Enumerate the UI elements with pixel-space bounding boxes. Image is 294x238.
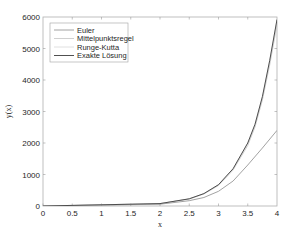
x-tick-label: 4: [275, 209, 280, 218]
y-tick-label: 3000: [22, 108, 40, 117]
x-tick-label: 1.5: [125, 209, 137, 218]
x-tick-label: 3: [216, 209, 221, 218]
x-tick-label: 0.5: [67, 209, 79, 218]
x-tick-label: 2: [158, 209, 163, 218]
y-tick-label: 5000: [22, 45, 40, 54]
x-tick-label: 1: [99, 209, 104, 218]
x-axis-label: x: [158, 220, 162, 229]
y-tick-label: 4000: [22, 76, 40, 85]
y-tick-label: 0: [36, 202, 41, 211]
y-tick-label: 6000: [22, 13, 40, 22]
y-axis-label: y(x): [4, 105, 13, 119]
x-tick-label: 2.5: [184, 209, 196, 218]
legend: Euler Mittelpunktsregel Runge-Kutta Exak…: [50, 23, 134, 62]
y-tick-label: 1000: [22, 171, 40, 180]
x-tick-label: 0: [41, 209, 46, 218]
x-tick-label: 3.5: [242, 209, 254, 218]
y-tick-label: 2000: [22, 139, 40, 148]
chart: 0 0.5 1 1.5 2 2.5 3 3.5 4 0 1000 2000 30…: [0, 0, 294, 238]
legend-label-exakte-loesung: Exakte Lösung: [77, 51, 127, 60]
